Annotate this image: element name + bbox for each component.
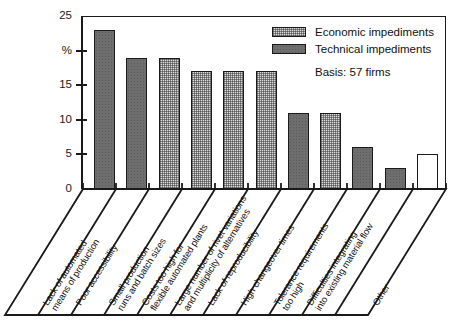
bar-chart: 25%151050 Economic impediments Technical… [0, 0, 464, 324]
y-axis-label-20: % [34, 44, 72, 56]
y-axis-label-15: 15 [34, 78, 72, 90]
bar-7 [288, 113, 309, 189]
bar-4 [191, 71, 212, 189]
bar-8 [320, 113, 341, 189]
bar-1 [94, 30, 115, 189]
legend-item-technical: Technical impediments [272, 41, 442, 57]
legend-label-economic: Economic impediments [315, 26, 434, 39]
bar-6 [256, 71, 277, 189]
legend-swatch-economic-icon [272, 27, 306, 37]
legend: Economic impediments Technical impedimen… [272, 24, 442, 79]
y-axis-label-5: 5 [34, 147, 72, 159]
y-axis-label-25: 25 [34, 9, 72, 21]
y-axis-label-10: 10 [34, 113, 72, 125]
bar-2 [126, 58, 147, 189]
legend-item-economic: Economic impediments [272, 24, 442, 40]
legend-swatch-technical-icon [272, 44, 306, 54]
legend-basis-note: Basis: 57 firms [315, 66, 442, 79]
bar-5 [223, 71, 244, 189]
legend-label-technical: Technical impediments [315, 43, 431, 56]
bar-3 [159, 58, 180, 189]
